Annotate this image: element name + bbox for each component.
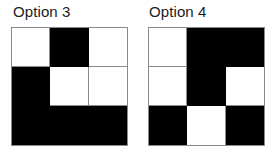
grid-cell[interactable] <box>148 27 187 67</box>
grid-cell[interactable] <box>89 27 128 67</box>
grid-cell[interactable] <box>187 67 226 107</box>
grid-cell[interactable] <box>226 27 265 67</box>
option-label-2: Option 4 <box>149 4 207 19</box>
option-label-1: Option 3 <box>13 4 71 19</box>
grid-cell[interactable] <box>50 27 89 67</box>
pattern-grid-1[interactable] <box>11 27 128 146</box>
pattern-grid-2[interactable] <box>148 27 265 146</box>
grid-cell[interactable] <box>11 27 50 67</box>
grid-cell[interactable] <box>50 106 89 146</box>
options-row: Option 3 Option 4 <box>0 0 273 150</box>
grid-cell[interactable] <box>89 106 128 146</box>
grid-cell[interactable] <box>226 67 265 107</box>
grid-cell[interactable] <box>148 67 187 107</box>
grid-cell[interactable] <box>11 67 50 107</box>
grid-cell[interactable] <box>89 67 128 107</box>
grid-cell[interactable] <box>50 67 89 107</box>
grid-cell[interactable] <box>187 27 226 67</box>
grid-cell[interactable] <box>11 106 50 146</box>
grid-cell[interactable] <box>187 106 226 146</box>
grid-cell[interactable] <box>226 106 265 146</box>
grid-cell[interactable] <box>148 106 187 146</box>
